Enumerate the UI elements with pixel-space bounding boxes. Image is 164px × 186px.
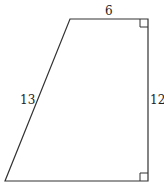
right-angle-marker-bottom	[140, 173, 148, 181]
right-angle-marker-top	[140, 19, 148, 27]
label-right: 12	[150, 93, 164, 107]
label-top: 6	[105, 4, 113, 18]
label-left: 13	[20, 93, 35, 107]
trapezoid-figure: 6 13 12	[0, 0, 164, 186]
